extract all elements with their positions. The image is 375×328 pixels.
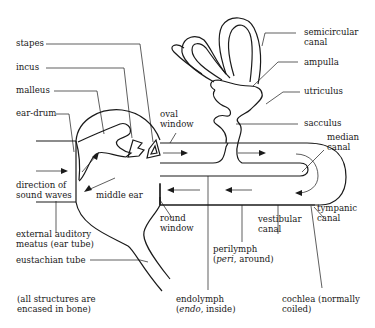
label-external-line1: external auditory bbox=[16, 229, 91, 239]
label-median-line1: median bbox=[327, 132, 359, 142]
label-semicircular-canal: semicircularcanal bbox=[304, 27, 358, 47]
label-round-window-line1: round bbox=[160, 213, 186, 223]
label-vestibular-line1: vestibular bbox=[258, 214, 302, 224]
label-malleus: malleus bbox=[16, 85, 50, 95]
label-note-line2: encased in bone) bbox=[17, 304, 91, 314]
label-oval-window-line1: oval bbox=[160, 109, 178, 119]
label-note-line1: (all structures are bbox=[17, 294, 96, 304]
label-perilymph-italic: peri bbox=[216, 254, 233, 264]
diagram-drawing bbox=[0, 0, 375, 328]
label-incus: incus bbox=[16, 62, 39, 72]
label-semicircular-line2: canal bbox=[304, 37, 327, 47]
label-direction-of-sound: direction ofsound waves bbox=[16, 180, 72, 200]
label-tympanic-line1: tympanic bbox=[317, 203, 357, 213]
label-external-line2: meatus (ear tube) bbox=[16, 239, 94, 249]
label-utriculus: utriculus bbox=[304, 86, 343, 96]
label-tympanic-canal: tympaniccanal bbox=[317, 203, 357, 223]
label-endolymph-italic: endo bbox=[179, 304, 200, 314]
label-perilymph: perilymph(peri, around) bbox=[213, 244, 274, 264]
label-sacculus: sacculus bbox=[304, 118, 341, 128]
label-endolymph-line1: endolymph bbox=[176, 294, 224, 304]
label-ear-drum: ear-drum bbox=[16, 108, 57, 118]
label-tympanic-line2: canal bbox=[317, 213, 340, 223]
label-cochlea-line2: coiled) bbox=[282, 304, 311, 314]
label-cochlea: cochlea (normallycoiled) bbox=[282, 294, 360, 314]
label-stapes: stapes bbox=[16, 38, 44, 48]
label-external-auditory-meatus: external auditorymeatus (ear tube) bbox=[16, 229, 94, 249]
label-semicircular-line1: semicircular bbox=[304, 27, 358, 37]
label-oval-window: ovalwindow bbox=[160, 109, 194, 129]
ear-anatomy-diagram: stapes incus malleus ear-drum ovalwindow… bbox=[0, 0, 375, 328]
label-endolymph-rest: , inside) bbox=[201, 304, 236, 314]
label-vestibular-canal: vestibularcanal bbox=[258, 214, 302, 234]
label-direction-line2: sound waves bbox=[16, 190, 72, 200]
label-bone-note: (all structures areencased in bone) bbox=[17, 294, 96, 314]
label-ampulla: ampulla bbox=[304, 57, 339, 67]
label-median-canal: mediancanal bbox=[327, 132, 359, 152]
label-round-window-line2: window bbox=[160, 223, 194, 233]
ossicles bbox=[78, 124, 160, 181]
label-perilymph-line1: perilymph bbox=[213, 244, 257, 254]
label-vestibular-line2: canal bbox=[258, 224, 281, 234]
label-middle-ear: middle ear bbox=[96, 190, 143, 200]
label-endolymph: endolymph(endo, inside) bbox=[176, 294, 236, 314]
label-cochlea-line1: cochlea (normally bbox=[282, 294, 360, 304]
leader-lines bbox=[46, 33, 324, 290]
label-direction-line1: direction of bbox=[16, 180, 66, 190]
flow-arrows bbox=[36, 150, 318, 196]
label-median-line2: canal bbox=[327, 142, 350, 152]
label-perilymph-rest: , around) bbox=[234, 254, 274, 264]
label-round-window: roundwindow bbox=[160, 213, 194, 233]
label-oval-window-line2: window bbox=[160, 119, 194, 129]
label-eustachian-tube: eustachian tube bbox=[16, 255, 86, 265]
